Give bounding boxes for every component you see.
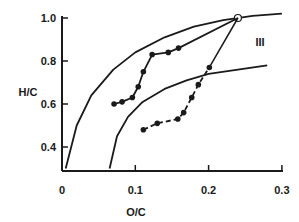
data-point	[119, 99, 125, 105]
y-axis-label: H/C	[19, 86, 38, 98]
data-point	[141, 127, 147, 133]
x-tick-label: 0	[59, 184, 65, 196]
upper-data-series	[114, 48, 179, 104]
data-point	[165, 50, 171, 56]
data-point	[175, 116, 181, 122]
data-point	[189, 95, 195, 101]
inner-boundary-curve	[110, 65, 268, 168]
data-point	[111, 101, 117, 107]
x-tick-label: 0.3	[274, 184, 289, 196]
x-axis-label: O/C	[126, 206, 146, 218]
chart: 0.40.60.81.000.10.20.3H/CO/CIII	[0, 0, 299, 222]
x-tick-label: 0.2	[201, 184, 216, 196]
y-tick-label: 1.0	[41, 12, 56, 24]
data-point	[130, 95, 136, 101]
data-point	[149, 52, 155, 58]
outer-boundary-curve	[66, 14, 282, 169]
data-point	[196, 82, 202, 88]
y-tick-label: 0.4	[41, 141, 57, 153]
y-tick-label: 0.8	[41, 55, 56, 67]
x-tick-label: 0.1	[128, 184, 143, 196]
data-point	[181, 110, 187, 116]
data-point	[135, 84, 141, 90]
data-point	[154, 121, 160, 127]
region-label: III	[255, 36, 264, 48]
y-tick-label: 0.6	[41, 98, 56, 110]
data-point	[141, 69, 147, 75]
